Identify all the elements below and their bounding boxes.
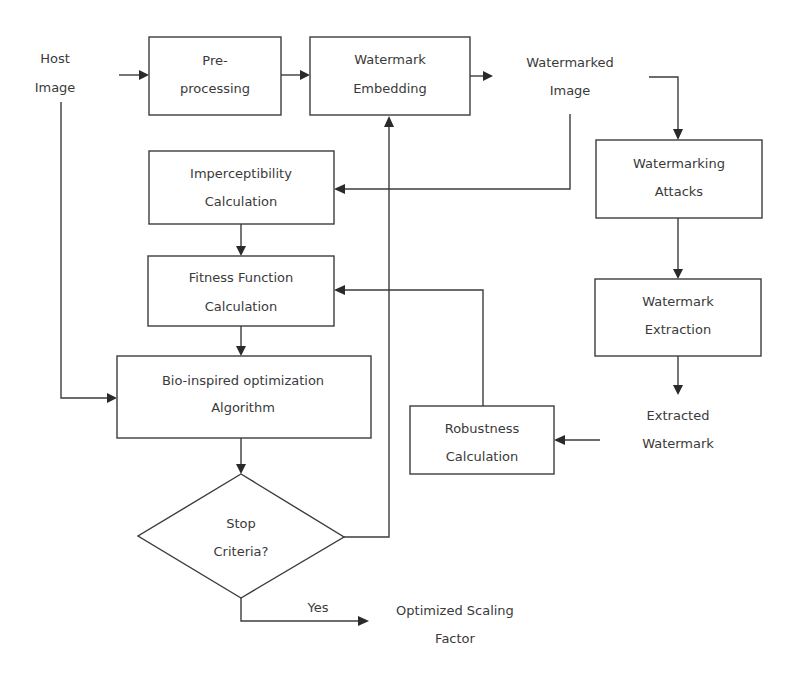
node-label: Pre-	[202, 53, 228, 68]
node-optimized-scaling-factor: Optimized Scaling Factor	[396, 603, 514, 646]
edge-fitness-to-bio	[236, 326, 246, 356]
node-label: Calculation	[446, 449, 519, 464]
arrowhead-icon	[673, 385, 683, 395]
node-label: Host	[40, 51, 70, 66]
node-label: Calculation	[205, 194, 278, 209]
node-robustness-calculation: Robustness Calculation	[410, 406, 554, 474]
arrowhead-icon	[107, 393, 117, 403]
node-label: Extraction	[645, 322, 711, 337]
edge-stop-to-optimized	[241, 598, 369, 626]
node-label: Image	[35, 80, 76, 95]
node-label: Factor	[435, 631, 475, 646]
node-label: Extracted	[647, 408, 710, 423]
node-label: Watermarked	[526, 55, 614, 70]
node-imperceptibility-calculation: Imperceptibility Calculation	[149, 151, 334, 224]
flowchart-svg: Host Image Pre- processing Watermark Emb…	[0, 0, 796, 685]
node-watermark-extraction: Watermark Extraction	[595, 279, 761, 356]
process-box	[595, 279, 761, 356]
node-watermarking-attacks: Watermarking Attacks	[596, 140, 762, 218]
node-label: processing	[180, 81, 250, 96]
edge-extracted-to-robustness	[554, 435, 600, 445]
arrowhead-icon	[236, 346, 246, 356]
arrowhead-icon	[334, 184, 345, 194]
edge-host-to-preprocessing	[119, 70, 149, 80]
node-label: Watermark	[642, 436, 714, 451]
process-box	[117, 356, 371, 438]
edge-host-to-bio	[61, 102, 117, 403]
process-box	[596, 140, 762, 218]
arrowhead-icon	[483, 71, 493, 81]
node-label: Criteria?	[214, 544, 269, 559]
arrowhead-icon	[300, 70, 310, 80]
node-label: Embedding	[353, 81, 427, 96]
node-label: Imperceptibility	[190, 166, 292, 181]
node-label: Attacks	[655, 184, 704, 199]
arrowhead-icon	[384, 116, 394, 127]
node-label: Optimized Scaling	[396, 603, 514, 618]
node-label: Watermark	[354, 52, 426, 67]
arrowhead-icon	[554, 435, 565, 445]
edge-preprocessing-to-embedding	[281, 70, 310, 80]
node-label: Bio-inspired optimization	[162, 373, 324, 388]
edge-stop-to-embedding	[344, 116, 394, 537]
node-label: Watermarking	[633, 156, 725, 171]
decision-diamond	[138, 474, 344, 598]
process-box	[149, 37, 281, 115]
node-label: Calculation	[205, 299, 278, 314]
process-box	[149, 151, 334, 224]
node-host-image: Host Image	[35, 51, 76, 95]
node-watermarked-image: Watermarked Image	[526, 55, 614, 98]
node-extracted-watermark: Extracted Watermark	[642, 408, 714, 451]
edge-imperceptibility-to-fitness	[236, 224, 246, 256]
edge-embedding-to-watermarked	[470, 71, 493, 81]
node-label: Fitness Function	[189, 270, 293, 285]
flowchart-canvas: Host Image Pre- processing Watermark Emb…	[0, 0, 796, 685]
node-bio-inspired-algorithm: Bio-inspired optimization Algorithm	[117, 356, 371, 438]
arrowhead-icon	[236, 464, 246, 474]
edge-bio-to-stop	[236, 438, 246, 474]
edge-extraction-to-extracted	[673, 356, 683, 395]
node-label: Stop	[226, 516, 256, 531]
edge-watermarked-to-imperceptibility	[334, 114, 570, 194]
node-watermark-embedding: Watermark Embedding	[310, 37, 470, 115]
node-label: Watermark	[642, 294, 714, 309]
node-label: Image	[550, 83, 591, 98]
arrowhead-icon	[673, 129, 683, 140]
node-preprocessing: Pre- processing	[149, 37, 281, 115]
node-label: Robustness	[445, 421, 520, 436]
process-box	[148, 256, 334, 326]
edge-attacks-to-extraction	[673, 218, 683, 279]
edge-label-yes: Yes	[307, 600, 329, 615]
arrowhead-icon	[236, 246, 246, 256]
arrowhead-icon	[139, 70, 149, 80]
node-fitness-function-calculation: Fitness Function Calculation	[148, 256, 334, 326]
arrowhead-icon	[673, 269, 683, 279]
edge-watermarked-to-attacks	[649, 77, 683, 140]
arrowhead-icon	[334, 285, 345, 295]
process-box	[310, 37, 470, 115]
node-label: Algorithm	[211, 400, 275, 415]
node-stop-criteria: Stop Criteria?	[138, 474, 344, 598]
arrowhead-icon	[358, 616, 369, 626]
